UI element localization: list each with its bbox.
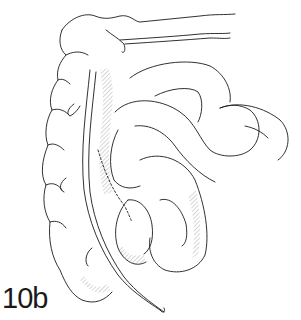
mesenteric-vessel	[60, 70, 164, 312]
intestine-illustration	[0, 0, 301, 320]
transverse-colon	[62, 14, 235, 53]
shading	[80, 68, 200, 293]
figure-label: 10b	[2, 284, 47, 313]
